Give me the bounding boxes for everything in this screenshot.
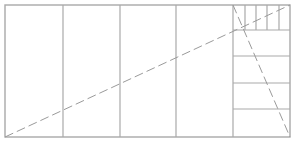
- dashed-diagonals: [5, 5, 290, 137]
- dashed-diagonal: [5, 5, 290, 137]
- dashed-diagonal: [233, 5, 290, 137]
- subdivided-rectangle-diagram: [0, 0, 296, 147]
